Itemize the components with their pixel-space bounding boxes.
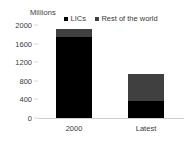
- x-axis-tick-2000: 2000: [39, 124, 109, 133]
- bar-segment-rest-2000: [56, 29, 92, 37]
- legend-label-rest-of-the-world: Rest of the world: [101, 15, 157, 23]
- bar-segment-lics-2000: [56, 37, 92, 118]
- legend-swatch-lics: [64, 17, 68, 21]
- plot-area: [38, 25, 184, 118]
- y-axis-tick-400: 400: [4, 95, 32, 104]
- legend-item-lics: LICs: [64, 15, 86, 23]
- legend-item-rest-of-the-world: Rest of the world: [95, 15, 158, 23]
- bar-segment-lics-latest: [128, 101, 164, 118]
- y-axis-tick-800: 800: [4, 76, 32, 85]
- y-axis-tick-0: 0: [4, 114, 32, 123]
- chart-legend: LICs Rest of the world: [64, 15, 158, 23]
- y-axis-tick-1200: 1200: [4, 58, 32, 67]
- y-axis-tick-2000: 2000: [4, 21, 32, 30]
- bar-segment-rest-latest: [128, 74, 164, 101]
- bar-group-2000: [56, 25, 92, 118]
- legend-swatch-rest-of-the-world: [95, 17, 99, 21]
- legend-label-lics: LICs: [71, 15, 86, 23]
- y-axis-unit-label: Millions: [30, 8, 56, 17]
- x-axis-tick-latest: Latest: [111, 124, 181, 133]
- x-axis-line: [38, 118, 184, 119]
- bar-group-latest: [128, 25, 164, 118]
- y-axis-tick-1600: 1600: [4, 39, 32, 48]
- stacked-bar-chart: Millions LICs Rest of the world 04008001…: [0, 0, 186, 142]
